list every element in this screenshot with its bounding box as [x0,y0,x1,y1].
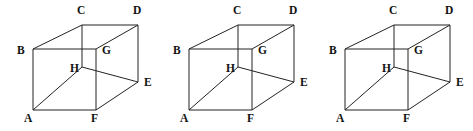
vertex-label-h: H [70,62,79,74]
vertex-label-f: F [403,112,410,124]
vertex-label-c: C [77,4,85,16]
vertex-label-d: D [445,4,453,16]
cube-edge-bc [345,25,394,49]
vertex-label-h: H [226,62,235,74]
cube-wireframe-2: ABCDEFGH [156,0,316,131]
cube-diagram-3: ABCDEFGH [312,0,472,131]
vertex-label-c: C [389,4,397,16]
vertex-label-f: F [247,112,254,124]
vertex-label-a: A [180,112,189,124]
cube-edge-eh [82,67,138,82]
vertex-label-g: G [414,44,423,56]
vertex-label-e: E [456,76,464,88]
vertex-label-a: A [336,112,345,124]
vertex-label-e: E [300,76,308,88]
cube-edge-fe [408,82,450,110]
cube-edge-bc [189,25,238,49]
vertex-label-e: E [144,76,152,88]
cube-diagram-figure: ABCDEFGH ABCDEFGH ABCDEFGH [0,0,473,131]
cube-edge-eh [394,67,450,82]
vertex-label-g: G [102,44,111,56]
cube-diagram-1: ABCDEFGH [0,0,160,131]
cube-diagram-2: ABCDEFGH [156,0,316,131]
vertex-label-c: C [233,4,241,16]
vertex-label-d: D [133,4,141,16]
vertex-label-b: B [173,44,181,56]
vertex-label-f: F [91,112,98,124]
cube-wireframe-3: ABCDEFGH [312,0,472,131]
vertex-label-h: H [382,62,391,74]
vertex-label-a: A [24,112,33,124]
vertex-label-b: B [329,44,337,56]
cube-edge-fe [252,82,294,110]
vertex-label-b: B [17,44,25,56]
vertex-label-g: G [258,44,267,56]
cube-edge-eh [238,67,294,82]
cube-edge-fe [96,82,138,110]
cube-edge-bc [33,25,82,49]
cube-wireframe-1: ABCDEFGH [0,0,160,131]
vertex-label-d: D [289,4,297,16]
